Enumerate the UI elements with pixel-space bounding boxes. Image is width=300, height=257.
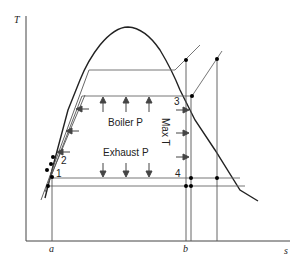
y-axis-label: T xyxy=(14,14,21,25)
x-tick-a: a xyxy=(49,243,54,254)
boiler-arrows xyxy=(100,97,152,112)
exhaust-p-label: Exhaust P xyxy=(103,147,149,158)
ts-diagram: T s a b xyxy=(0,0,300,257)
point-4-label: 4 xyxy=(175,168,181,179)
exhaust-arrows xyxy=(100,163,152,177)
maxt-arrows xyxy=(176,107,189,160)
liquid-lines xyxy=(41,70,89,200)
point-1-label: 1 xyxy=(56,168,62,179)
point-3-label: 3 xyxy=(174,96,180,107)
point-2-label: 2 xyxy=(61,155,67,166)
x-axis-label: s xyxy=(284,245,288,256)
max-t-label: Max T xyxy=(160,118,171,146)
boiler-p-label: Boiler P xyxy=(108,117,143,128)
axes xyxy=(26,16,290,241)
isobars xyxy=(50,70,245,186)
superheat-lines xyxy=(175,45,222,96)
x-tick-b: b xyxy=(183,243,188,254)
